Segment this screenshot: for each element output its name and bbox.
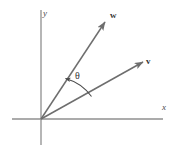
theta-label: θ <box>75 71 80 81</box>
vector-v-label: v <box>146 57 151 66</box>
vector-w-label: w <box>110 11 117 20</box>
vector-v-arrow <box>41 62 143 119</box>
x-axis-label: x <box>162 103 166 112</box>
figure-canvas <box>0 0 179 152</box>
y-axis-label: y <box>43 9 47 18</box>
vector-w-arrow <box>41 22 105 119</box>
vector-angle-figure: y x w v θ <box>0 0 179 152</box>
